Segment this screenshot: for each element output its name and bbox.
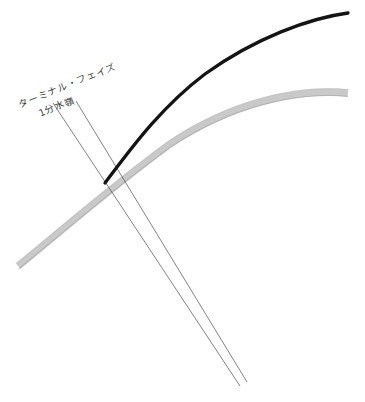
upper-black-curve-path: [105, 13, 348, 183]
lower-gray-curve: [18, 89, 348, 270]
leader-line-2: [76, 101, 247, 382]
curve-diagram-svg: [0, 0, 365, 402]
diagram-canvas: ターミナル・フェイズ 1分水嶺: [0, 0, 365, 402]
lower-gray-curve-lower-edge: [18, 96, 348, 270]
leader-line-1: [53, 103, 240, 386]
lower-gray-curve-band: [18, 92, 348, 266]
lower-gray-curve-upper-edge: [18, 89, 348, 263]
leader-lines: [53, 101, 247, 386]
upper-black-curve: [105, 13, 348, 183]
